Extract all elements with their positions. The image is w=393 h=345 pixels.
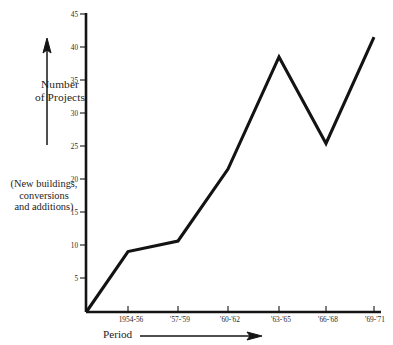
- y-tick-label-25: 25: [71, 143, 79, 151]
- x-axis-title: Period: [103, 328, 132, 340]
- y-tick-label-40: 40: [71, 44, 79, 52]
- y-tick-label-30: 30: [71, 110, 79, 118]
- chart-canvas: 45 40 35 30 25 20 15 10 5 1954-56 '57-'5…: [0, 0, 393, 345]
- y-axis-title-line1: Number: [41, 78, 79, 90]
- y-tick-label-10: 10: [71, 242, 79, 250]
- right-arrow-icon: [140, 332, 262, 340]
- y-axis-title-line2: of Projects: [35, 91, 85, 103]
- x-tick-label-1954-56: 1954-56: [119, 315, 144, 324]
- x-tick-label-63-65: '63-'65: [271, 315, 291, 324]
- y-tick-label-5: 5: [74, 275, 78, 283]
- x-tick-label-66-68: '66-'68: [318, 315, 338, 324]
- x-tick-label-69-71: '69-'71: [365, 315, 385, 324]
- y-axis-note-line1: (New buildings,: [2, 178, 86, 190]
- y-axis-note: (New buildings, conversions and addition…: [2, 178, 86, 213]
- line-chart-figure: 45 40 35 30 25 20 15 10 5 1954-56 '57-'5…: [0, 0, 393, 345]
- y-axis-note-line2: conversions: [2, 190, 86, 202]
- data-series-line: [87, 37, 374, 311]
- y-axis-title: Number of Projects: [27, 78, 93, 104]
- x-tick-label-57-59: '57-'59: [170, 315, 190, 324]
- y-axis-note-line3: and additions): [2, 201, 86, 213]
- x-tick-label-60-62: '60-'62: [220, 315, 240, 324]
- y-tick-label-45: 45: [71, 11, 79, 19]
